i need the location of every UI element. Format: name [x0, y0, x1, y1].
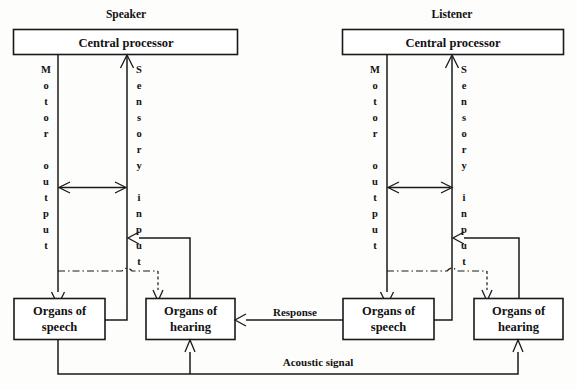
response-label: Response [273, 306, 317, 318]
letter: o [43, 160, 48, 171]
listener-organs-of-hearing-label-1: Organs of [492, 304, 546, 318]
letter: r [44, 128, 49, 139]
listener-internal-dashdot-link [387, 268, 487, 271]
letter: t [373, 96, 377, 107]
letter: n [136, 96, 142, 107]
letter: S [461, 64, 467, 75]
listener-organs-of-speech-label-2: speech [371, 320, 406, 334]
letter: y [136, 160, 142, 171]
letter: t [462, 256, 466, 267]
speaker-organs-of-speech-label-2: speech [42, 320, 77, 334]
letter: o [372, 80, 377, 91]
letter: u [43, 176, 49, 187]
listener-organs-of-hearing-label-2: hearing [498, 320, 540, 334]
letter: t [373, 240, 377, 251]
letter: s [462, 112, 466, 123]
listener-group: Listener Central processor M o t o r o [343, 8, 564, 340]
letter: i [138, 192, 141, 203]
listener-heading: Listener [432, 8, 473, 20]
speaker-internal-dashdot-link [58, 268, 158, 271]
letter: n [461, 208, 467, 219]
acoustic-signal-arrowhead-listener [513, 340, 523, 352]
speaker-sensory-input-letters: S e n s o r y i n p u t [136, 64, 142, 267]
speaker-motor-output-letters: M o t o r o u t p u t [41, 64, 51, 251]
letter: t [373, 192, 377, 203]
letter: u [136, 240, 142, 251]
listener-speech-to-sensory-link [434, 305, 452, 320]
letter: y [461, 160, 467, 171]
speaker-organs-of-speech-label-1: Organs of [33, 304, 87, 318]
letter: t [44, 192, 48, 203]
acoustic-signal-arrowhead-speaker [185, 340, 195, 352]
letter: i [463, 192, 466, 203]
speech-chain-diagram: Speaker Central processor M o t o r o [0, 0, 577, 390]
letter: u [43, 224, 49, 235]
letter: t [44, 96, 48, 107]
letter: s [137, 112, 141, 123]
letter: t [44, 240, 48, 251]
letter: o [43, 112, 48, 123]
speaker-heading: Speaker [106, 8, 146, 21]
letter: S [136, 64, 142, 75]
letter: r [373, 128, 378, 139]
letter: e [462, 80, 467, 91]
letter: r [137, 144, 142, 155]
letter: M [41, 64, 51, 75]
letter: e [137, 80, 142, 91]
speaker-organs-of-hearing-label-2: hearing [170, 320, 212, 334]
letter: M [370, 64, 380, 75]
letter: u [372, 224, 378, 235]
letter: p [43, 208, 49, 219]
letter: o [372, 160, 377, 171]
acoustic-signal-label: Acoustic signal [283, 356, 354, 368]
letter: t [137, 256, 141, 267]
speaker-speech-to-sensory-link [105, 305, 127, 320]
letter: o [43, 80, 48, 91]
letter: p [372, 208, 378, 219]
response-arrowhead [235, 314, 246, 326]
letter: r [462, 144, 467, 155]
speaker-group: Speaker Central processor M o t o r o [14, 8, 238, 340]
speaker-central-processor-label: Central processor [78, 36, 174, 50]
letter: u [372, 176, 378, 187]
diagram-canvas: Speaker Central processor M o t o r o [0, 0, 577, 390]
letter: n [461, 96, 467, 107]
letter: u [461, 240, 467, 251]
letter: o [461, 128, 466, 139]
letter: o [136, 128, 141, 139]
listener-central-processor-label: Central processor [405, 36, 501, 50]
speaker-organs-of-hearing-label-1: Organs of [164, 304, 218, 318]
letter: n [136, 208, 142, 219]
letter: o [372, 112, 377, 123]
listener-organs-of-speech-label-1: Organs of [362, 304, 416, 318]
listener-sensory-input-letters: S e n s o r y i n p u t [461, 64, 467, 267]
listener-motor-output-letters: M o t o r o u t p u t [370, 64, 380, 251]
